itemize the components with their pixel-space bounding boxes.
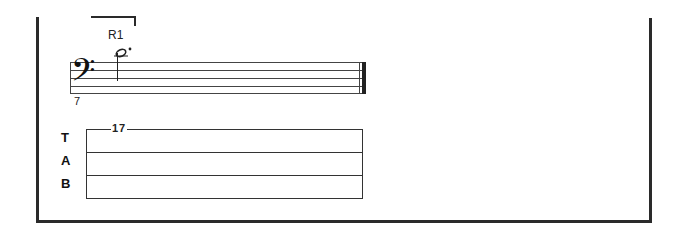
rehearsal-mark: R1 [108, 28, 123, 42]
tab-fret-number: 17 [111, 122, 127, 134]
tab-right-bar [362, 129, 363, 199]
rehearsal-bracket-tick [134, 16, 136, 26]
final-barline-thin [359, 62, 360, 94]
staff-line [70, 93, 362, 94]
frame-left-border [36, 17, 39, 223]
tab-line [86, 152, 363, 153]
note-stem [117, 53, 118, 81]
staff-line [70, 86, 362, 87]
rehearsal-bracket [91, 16, 136, 18]
staff-line [70, 70, 362, 71]
tab-letter-b: B [61, 176, 70, 191]
tab-left-bar [86, 129, 87, 199]
tab-line [86, 129, 363, 130]
dotted-half-note-icon [110, 44, 134, 60]
staff-line [70, 78, 362, 79]
frame-bottom-border [36, 220, 652, 223]
final-barline-thick [362, 62, 366, 94]
tab-letter-t: T [61, 130, 69, 145]
staff-line [70, 62, 362, 63]
tab-line [86, 198, 363, 199]
tab-letter-a: A [61, 153, 70, 168]
frame-right-border [649, 18, 652, 223]
tab-line [86, 175, 363, 176]
bass-clef-icon: 𝄢 [71, 54, 95, 94]
measure-number: 7 [74, 95, 80, 108]
